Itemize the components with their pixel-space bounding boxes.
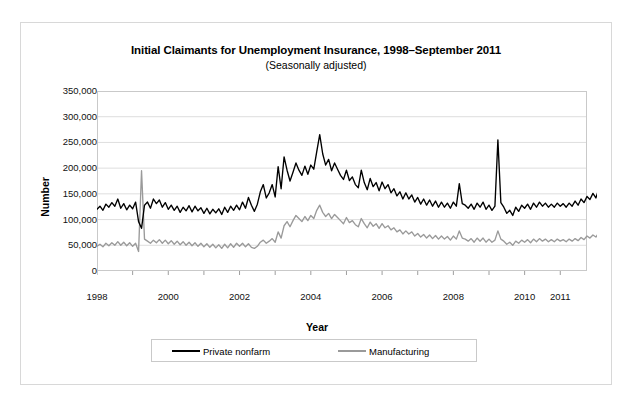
- x-axis-label: Year: [21, 321, 613, 333]
- x-tick-label: 2008: [433, 291, 473, 302]
- x-tick-label: 2002: [220, 291, 260, 302]
- x-tick-label: 2010: [505, 291, 545, 302]
- y-tick-label: 100,000: [27, 215, 97, 225]
- plot-canvas: [97, 91, 597, 291]
- y-tick-label: 50,000: [27, 240, 97, 250]
- legend-swatch-icon-manufacturing: [338, 350, 366, 352]
- series-line-manufacturing: [97, 171, 597, 252]
- x-tick-label: 2004: [291, 291, 331, 302]
- legend-item-manufacturing: Manufacturing: [338, 344, 429, 358]
- x-tick-label: 1998: [77, 291, 117, 302]
- y-tick-label: 150,000: [27, 189, 97, 199]
- y-tick-label: 350,000: [27, 86, 97, 96]
- plot-area-wrapper: Number Year 050,000100,000150,000200,000…: [21, 23, 613, 386]
- x-tick-label: 2011: [540, 291, 580, 302]
- legend-label-manufacturing: Manufacturing: [369, 346, 429, 357]
- y-tick-label: 0: [27, 266, 97, 276]
- x-tick-label: 2006: [362, 291, 402, 302]
- x-tickmarks: [97, 271, 560, 275]
- legend-swatch-icon-private-nonfarm: [172, 350, 200, 352]
- y-axis-ticks: 050,000100,000150,000200,000250,000300,0…: [29, 23, 97, 386]
- legend-item-private-nonfarm: Private nonfarm: [172, 344, 270, 358]
- y-tick-label: 200,000: [27, 163, 97, 173]
- chart-legend: Private nonfarm Manufacturing: [151, 339, 477, 362]
- y-tick-label: 250,000: [27, 137, 97, 147]
- y-tick-label: 300,000: [27, 112, 97, 122]
- chart-figure: Initial Claimants for Unemployment Insur…: [20, 22, 612, 385]
- legend-label-private-nonfarm: Private nonfarm: [203, 346, 270, 357]
- series-line-private-nonfarm: [97, 116, 597, 228]
- x-tick-label: 2000: [148, 291, 188, 302]
